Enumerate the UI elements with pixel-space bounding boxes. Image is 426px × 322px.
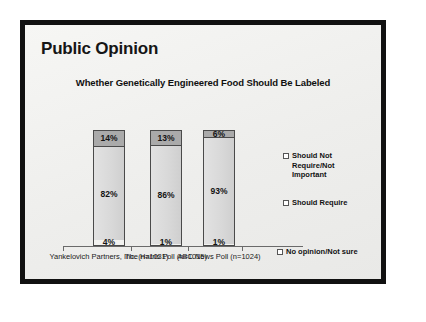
- bar-segment-no-opinion[interactable]: 4%: [94, 240, 124, 245]
- slide-frame: Public Opinion Whether Genetically Engin…: [20, 20, 386, 284]
- legend-item-should-require[interactable]: Should Require: [283, 198, 347, 208]
- axis-tick: [63, 247, 64, 251]
- bar-segment-should-require[interactable]: 93%: [204, 138, 234, 244]
- slide-background: Public Opinion Whether Genetically Engin…: [25, 25, 381, 279]
- chart-plot-area: 1998 14% 82% 4% Yankelovich Partners, In…: [85, 111, 257, 246]
- x-axis-line: [63, 246, 303, 247]
- legend-swatch-icon: [283, 153, 289, 159]
- category-label: ABC News Poll (n=1024): [177, 252, 260, 262]
- bar-segment-label: 14%: [100, 133, 117, 143]
- bar-segment-label: 1%: [160, 237, 172, 247]
- bar-segment-should-not-require[interactable]: 13%: [151, 131, 181, 146]
- legend-label: Should Require: [292, 198, 347, 208]
- bar-segment-should-not-require[interactable]: 6%: [204, 131, 234, 138]
- legend-label: No opinion/Not sure: [286, 247, 358, 257]
- axis-tick: [242, 247, 243, 251]
- bar-segment-no-opinion[interactable]: 1%: [151, 244, 181, 245]
- bar-segment-label: 4%: [103, 237, 115, 247]
- page-title: Public Opinion: [41, 39, 158, 59]
- legend-swatch-icon: [283, 200, 289, 206]
- bar-segment-should-require[interactable]: 82%: [94, 147, 124, 240]
- bar-segment-label: 82%: [100, 189, 117, 199]
- bar-segment-no-opinion[interactable]: 1%: [204, 244, 234, 245]
- axis-tick: [188, 247, 189, 251]
- stacked-bar[interactable]: 14% 82% 4%: [93, 130, 125, 246]
- legend-label: Should Not Require/Not Important: [292, 151, 335, 180]
- legend-item-should-not-require[interactable]: Should Not Require/Not Important: [283, 151, 335, 180]
- bar-segment-label: 86%: [157, 190, 174, 200]
- bar-segment-label: 1%: [213, 237, 225, 247]
- bar-segment-should-not-require[interactable]: 14%: [94, 131, 124, 147]
- legend-item-no-opinion[interactable]: No opinion/Not sure: [277, 247, 358, 257]
- bar-segment-should-require[interactable]: 86%: [151, 146, 181, 244]
- axis-tick: [131, 247, 132, 251]
- bar-segment-label: 93%: [210, 186, 227, 196]
- stacked-bar[interactable]: 6% 93% 1%: [203, 130, 235, 246]
- chart-title: Whether Genetically Engineered Food Shou…: [25, 77, 381, 88]
- legend-swatch-icon: [277, 249, 283, 255]
- bar-segment-label: 13%: [157, 133, 174, 143]
- stacked-bar[interactable]: 13% 86% 1%: [150, 130, 182, 246]
